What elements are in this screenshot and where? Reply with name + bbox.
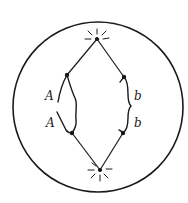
top-aster-icon <box>85 29 109 41</box>
label-left-upper: A <box>44 89 54 103</box>
label-right-lower: b <box>134 116 142 130</box>
cell-division-diagram: A A b b <box>0 0 188 203</box>
bottom-aster-icon <box>88 163 112 181</box>
label-right-upper: b <box>134 89 142 103</box>
label-left-lower: A <box>45 116 55 130</box>
chromosome-pair-right <box>119 76 131 135</box>
spindle-fibers <box>67 39 124 170</box>
chromosome-pair-left <box>57 74 76 135</box>
